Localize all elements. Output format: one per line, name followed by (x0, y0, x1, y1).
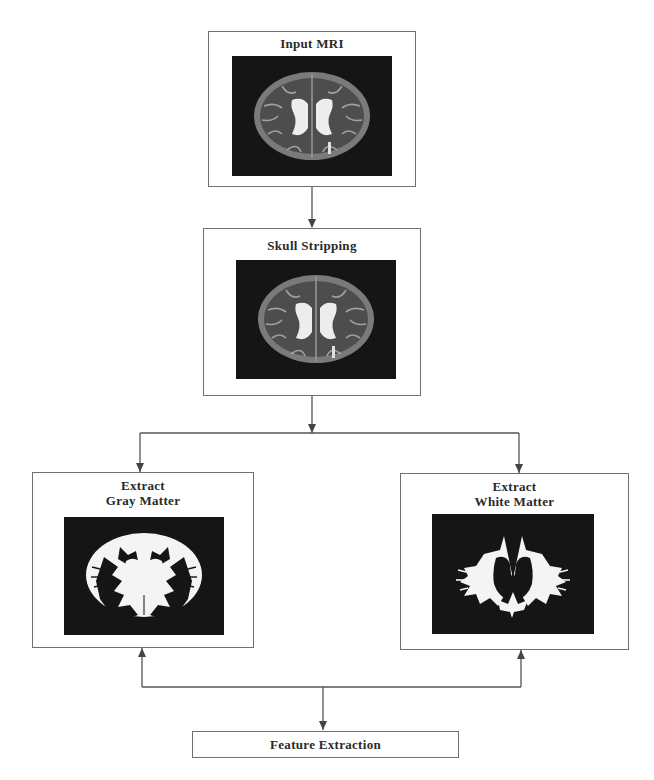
skull-stripping-node: Skull Stripping (203, 228, 421, 396)
arrow-down-icon (136, 463, 144, 472)
node-title: Feature Extraction (193, 738, 458, 752)
node-title: Skull Stripping (204, 239, 420, 253)
feature-extraction-node: Feature Extraction (192, 731, 459, 758)
input-mri-node: Input MRI (208, 31, 416, 187)
gray-matter-node: Extract Gray Matter (32, 472, 254, 648)
arrow-down-icon (308, 219, 316, 228)
white-matter-node: Extract White Matter (400, 473, 629, 650)
arrow-up-icon (517, 650, 525, 659)
arrow-up-icon (138, 648, 146, 657)
arrow-down-icon (515, 464, 523, 473)
skull-stripped-image (236, 260, 396, 379)
node-title-line2: White Matter (401, 495, 628, 509)
arrow-down-icon (308, 424, 316, 433)
arrow-down-icon (319, 721, 327, 730)
node-title-line2: Gray Matter (33, 494, 253, 508)
node-title: Input MRI (209, 37, 415, 51)
mri-image (232, 56, 392, 176)
white-matter-image (432, 514, 594, 634)
gray-matter-image (64, 517, 224, 635)
node-title-line1: Extract (33, 479, 253, 493)
node-title-line1: Extract (401, 480, 628, 494)
